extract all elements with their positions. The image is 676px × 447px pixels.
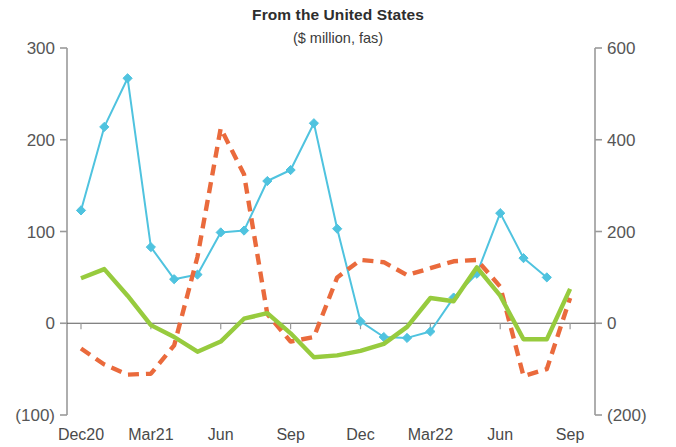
series-marker-blue-series — [216, 228, 225, 237]
left-axis-tick-label: 200 — [27, 131, 55, 150]
x-axis-tick-label: Mar21 — [128, 426, 173, 443]
chart-plot: 3002001000(100) 6004002000(200) Dec20Mar… — [0, 0, 676, 447]
right-axis-tick-label: 200 — [607, 223, 635, 242]
x-axis-tick-label: Mar22 — [408, 426, 453, 443]
right-axis-tick-label: 0 — [607, 314, 616, 333]
left-axis: 3002001000(100) — [15, 39, 67, 425]
right-axis-tick-label: 600 — [607, 39, 635, 58]
left-axis-tick-label: (100) — [15, 406, 55, 425]
series-marker-blue-series — [239, 226, 248, 235]
x-axis-tick-label: Jun — [487, 426, 513, 443]
x-axis-tick-label: Jun — [208, 426, 234, 443]
x-axis-tick-label: Dec20 — [58, 426, 104, 443]
x-axis-tick-label: Sep — [556, 426, 585, 443]
right-axis-tick-label: 400 — [607, 131, 635, 150]
right-axis-tick-label: (200) — [607, 406, 647, 425]
series-layer — [76, 74, 570, 376]
series-marker-blue-series — [496, 209, 505, 218]
x-axis-tick-label: Sep — [276, 426, 305, 443]
series-marker-blue-series — [263, 176, 272, 185]
series-marker-blue-series — [76, 206, 85, 215]
left-axis-tick-label: 300 — [27, 39, 55, 58]
series-line-blue-series — [81, 78, 547, 338]
x-axis-tick-label: Dec — [346, 426, 374, 443]
series-marker-blue-series — [333, 224, 342, 233]
series-marker-blue-series — [402, 333, 411, 342]
chart-container: From the United States ($ million, fas) … — [0, 0, 676, 447]
series-marker-blue-series — [309, 119, 318, 128]
x-axis: Dec20Mar21JunSepDecMar22JunSep — [58, 323, 585, 443]
series-marker-blue-series — [100, 122, 109, 131]
series-marker-blue-series — [286, 165, 295, 174]
left-axis-tick-label: 0 — [46, 314, 55, 333]
series-marker-blue-series — [123, 74, 132, 83]
left-axis-tick-label: 100 — [27, 223, 55, 242]
right-axis: 6004002000(200) — [595, 39, 647, 425]
